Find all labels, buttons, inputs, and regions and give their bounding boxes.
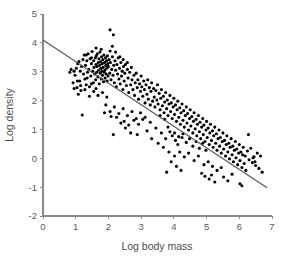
data-point <box>177 135 180 138</box>
data-point <box>157 102 160 105</box>
data-point <box>157 142 160 145</box>
data-point <box>199 137 202 140</box>
x-tick-label: 0 <box>40 221 45 232</box>
data-point <box>83 88 86 91</box>
data-point <box>153 96 156 99</box>
data-point <box>227 142 230 145</box>
data-point <box>115 63 118 66</box>
data-point <box>215 149 218 152</box>
data-point <box>91 50 94 53</box>
data-point <box>127 91 130 94</box>
y-tick-label: 1 <box>32 124 37 135</box>
data-point <box>159 97 162 100</box>
data-point <box>123 72 126 75</box>
data-point <box>198 130 201 133</box>
data-point <box>219 136 222 139</box>
data-point <box>112 33 115 36</box>
data-point <box>102 66 105 69</box>
data-point <box>211 129 214 132</box>
plot-canvas: -2-1012345 01234567 Log body mass Log de… <box>0 0 283 259</box>
data-point <box>85 53 88 56</box>
y-tick-label: -1 <box>29 182 37 193</box>
data-point <box>231 153 234 156</box>
data-point <box>202 163 205 166</box>
data-point <box>215 132 218 135</box>
data-point <box>127 77 130 80</box>
data-point <box>88 85 91 88</box>
data-point <box>226 179 229 182</box>
data-point <box>222 148 225 151</box>
data-point <box>198 147 201 150</box>
data-point <box>73 87 76 90</box>
data-point <box>120 74 123 77</box>
data-point <box>124 126 127 129</box>
data-point <box>132 119 135 122</box>
data-point <box>168 130 171 133</box>
data-point <box>181 119 184 122</box>
data-point <box>222 175 225 178</box>
data-point <box>173 113 176 116</box>
y-tick-label: 0 <box>32 153 37 164</box>
data-point <box>164 91 167 94</box>
data-point <box>208 178 211 181</box>
data-point <box>81 58 84 61</box>
data-point <box>82 72 85 75</box>
data-point <box>176 100 179 103</box>
data-point <box>149 103 152 106</box>
data-point <box>90 62 93 65</box>
data-point <box>257 167 260 170</box>
data-point <box>180 169 183 172</box>
data-point <box>261 171 264 174</box>
data-point <box>202 133 205 136</box>
data-point <box>92 90 95 93</box>
data-point <box>92 66 95 69</box>
data-point <box>171 117 174 120</box>
data-point <box>185 105 188 108</box>
data-point <box>247 133 250 136</box>
data-point <box>191 131 194 134</box>
data-point <box>113 81 116 84</box>
data-point <box>108 72 111 75</box>
data-point <box>192 120 195 123</box>
data-point <box>111 45 114 48</box>
data-point <box>173 131 176 134</box>
data-point <box>175 120 178 123</box>
data-point <box>100 48 103 51</box>
data-point <box>76 79 79 82</box>
data-point <box>90 56 93 59</box>
data-point <box>162 95 165 98</box>
data-point <box>207 126 210 129</box>
data-point <box>251 161 254 164</box>
data-point <box>145 93 148 96</box>
data-point <box>220 166 223 169</box>
data-point <box>86 77 89 80</box>
data-point <box>119 61 122 64</box>
data-point <box>172 97 175 100</box>
data-point <box>90 82 93 85</box>
data-point <box>121 70 124 73</box>
data-point <box>129 131 132 134</box>
x-tick-label: 7 <box>269 221 274 232</box>
y-tick-label: 4 <box>32 37 37 48</box>
data-point <box>174 139 177 142</box>
data-point <box>165 107 168 110</box>
data-point <box>191 145 194 148</box>
data-point <box>195 118 198 121</box>
data-point <box>68 71 71 74</box>
data-point <box>105 96 108 99</box>
data-point <box>178 106 181 109</box>
data-point <box>156 83 159 86</box>
data-point <box>240 184 243 187</box>
data-point <box>74 74 77 77</box>
data-point <box>139 111 142 114</box>
data-point <box>238 159 241 162</box>
data-point <box>136 133 139 136</box>
data-point <box>114 51 117 54</box>
data-point <box>98 51 101 54</box>
data-point <box>217 128 220 131</box>
data-point <box>203 175 206 178</box>
data-point <box>108 58 111 61</box>
data-point <box>223 139 226 142</box>
data-point <box>170 160 173 163</box>
data-point <box>110 115 113 118</box>
